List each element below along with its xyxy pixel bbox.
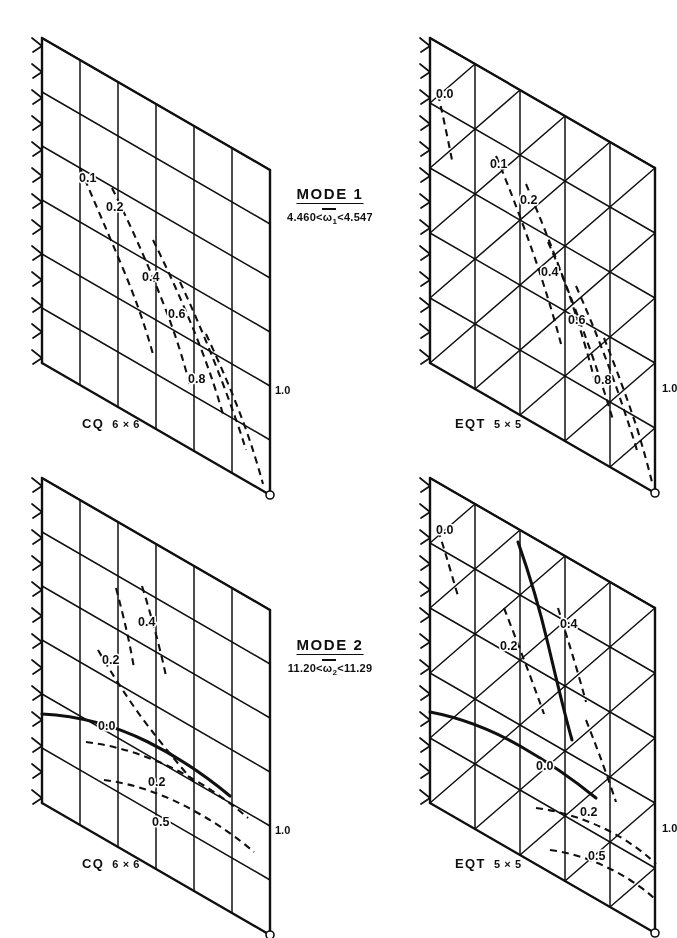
mode-2-range-low: 11.20 xyxy=(288,662,316,674)
omega-bar-1: ω1 xyxy=(323,211,337,226)
max-node-marker xyxy=(266,931,274,938)
contour-label: 0.2 xyxy=(106,200,123,214)
mode-1-range-low: 4.460 xyxy=(287,211,316,223)
caption-mode1-eqt: EQT5 × 5 xyxy=(455,416,522,431)
clamped-edge-hatching xyxy=(32,478,42,804)
panel-mode2-eqt: 0.0 0.2 0.4 0.0 0.2 0.5 xyxy=(408,468,658,838)
contour-label: 0.0 xyxy=(536,759,553,773)
mode-1-title: MODE 1 xyxy=(230,185,430,202)
corner-value-mode2-eqt: 1.0 xyxy=(662,822,677,834)
lt-sign-2: < xyxy=(337,211,344,223)
grid-label: 6 × 6 xyxy=(112,418,140,430)
mode-2-range: 11.20<ω2<11.29 xyxy=(230,662,430,677)
contour-label: 0.2 xyxy=(148,775,165,789)
method-label: EQT xyxy=(455,416,486,431)
contour-label: 0.2 xyxy=(520,193,537,207)
method-label: EQT xyxy=(455,856,486,871)
lt-sign-1: < xyxy=(316,211,323,223)
contour-label: 0.5 xyxy=(152,815,169,829)
contour-label: 0.6 xyxy=(168,307,185,321)
contour-label: 0.2 xyxy=(580,805,597,819)
contour-label: 0.2 xyxy=(102,653,119,667)
mode-1-block: MODE 1 4.460<ω1<4.547 xyxy=(230,185,430,226)
caption-mode2-eqt: EQT5 × 5 xyxy=(455,856,522,871)
corner-value-mode1-cq: 1.0 xyxy=(275,384,290,396)
panel-mode1-eqt: 0.0 0.1 0.2 0.4 0.6 0.8 xyxy=(408,28,658,398)
grid-label: 6 × 6 xyxy=(112,858,140,870)
contour-label: 0.5 xyxy=(588,849,605,863)
max-node-marker xyxy=(651,929,659,937)
caption-mode1-cq: CQ6 × 6 xyxy=(82,416,140,431)
grid-label: 5 × 5 xyxy=(494,418,522,430)
contour-label: 0.8 xyxy=(594,373,611,387)
caption-mode2-cq: CQ6 × 6 xyxy=(82,856,140,871)
mode-2-range-high: 11.29 xyxy=(344,662,372,674)
omega-bar-2: ω2 xyxy=(323,662,337,677)
method-label: CQ xyxy=(82,856,104,871)
contour-label: 0.4 xyxy=(138,615,155,629)
contour-label: 0.0 xyxy=(98,719,115,733)
grid-label: 5 × 5 xyxy=(494,858,522,870)
omega-symbol: ω xyxy=(323,211,333,223)
method-label: CQ xyxy=(82,416,104,431)
contour-label: 0.0 xyxy=(436,87,453,101)
mesh-quad-6x6 xyxy=(42,38,270,495)
lt-sign-3: < xyxy=(316,662,323,674)
mode-2-title: MODE 2 xyxy=(230,636,430,653)
contour-label: 0.2 xyxy=(500,639,517,653)
omega-symbol: ω xyxy=(323,662,333,674)
corner-value-mode2-cq: 1.0 xyxy=(275,824,290,836)
mesh-quad-6x6 xyxy=(42,478,270,935)
contour-label: 0.4 xyxy=(560,617,577,631)
clamped-edge-hatching xyxy=(32,38,42,364)
mode-1-range-high: 4.547 xyxy=(344,211,373,223)
mode-1-range: 4.460<ω1<4.547 xyxy=(230,211,430,226)
mode-2-block: MODE 2 11.20<ω2<11.29 xyxy=(230,636,430,677)
contour-label: 0.6 xyxy=(568,313,585,327)
contour-label: 0.0 xyxy=(436,523,453,537)
lt-sign-4: < xyxy=(337,662,344,674)
contour-label: 0.4 xyxy=(541,265,558,279)
omega-subscript: 2 xyxy=(332,668,337,677)
contour-label: 0.8 xyxy=(188,372,205,386)
contour-label: 0.1 xyxy=(490,157,507,171)
contour-label: 0.4 xyxy=(142,270,159,284)
corner-value-mode1-eqt: 1.0 xyxy=(662,382,677,394)
contour-label: 0.1 xyxy=(79,171,96,185)
contour-lines xyxy=(438,530,656,900)
omega-subscript: 1 xyxy=(332,217,337,226)
nodal-line xyxy=(430,542,596,798)
